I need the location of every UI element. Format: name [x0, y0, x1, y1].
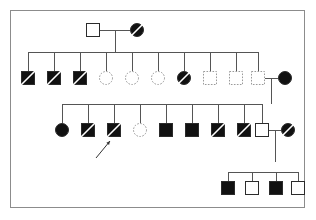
symbol-circle-II-6[interactable]	[152, 72, 165, 85]
individual-II-3-male-affected[interactable]	[72, 70, 88, 86]
individual-II-9-male-unaffected[interactable]	[230, 72, 243, 85]
individual-IV-1-male-affected[interactable]	[222, 182, 235, 195]
individual-IV-4-male-unaffected[interactable]	[292, 182, 305, 195]
individual-III-4-female-unaffected[interactable]	[134, 124, 147, 137]
annotations-layer	[96, 141, 110, 158]
individual-II-4-female-unaffected[interactable]	[100, 72, 113, 85]
chart-frame-rect	[11, 11, 305, 208]
individual-I-2-female-affected[interactable]	[129, 22, 145, 38]
individual-II-5-female-unaffected[interactable]	[126, 72, 139, 85]
symbol-square-IV-3[interactable]	[270, 182, 283, 195]
individual-IV-2-male-unaffected[interactable]	[246, 182, 259, 195]
individual-III-1-female-affected[interactable]	[56, 124, 69, 137]
individual-II-7-female-affected[interactable]	[176, 70, 192, 86]
proband-arrow	[96, 141, 110, 158]
individual-II-2-male-affected[interactable]	[46, 70, 62, 86]
symbol-square-IV-1[interactable]	[222, 182, 235, 195]
symbol-circle-II-4[interactable]	[100, 72, 113, 85]
individual-II-6-female-unaffected[interactable]	[152, 72, 165, 85]
symbol-square-II-10[interactable]	[252, 72, 265, 85]
connector-lines-layer	[11, 11, 305, 208]
individual-III-6-male-affected[interactable]	[186, 124, 199, 137]
symbol-circle-III-4[interactable]	[134, 124, 147, 137]
symbol-square-III-6[interactable]	[186, 124, 199, 137]
individual-II-1-male-affected[interactable]	[20, 70, 36, 86]
individual-III-9-male-unaffected[interactable]	[256, 124, 269, 137]
symbol-square-III-5[interactable]	[160, 124, 173, 137]
symbol-square-IV-4[interactable]	[292, 182, 305, 195]
individual-I-1-male-unaffected[interactable]	[87, 24, 100, 37]
individual-III-8-male-affected[interactable]	[236, 122, 252, 138]
individual-III-2-male-affected[interactable]	[80, 122, 96, 138]
symbol-circle-II-5[interactable]	[126, 72, 139, 85]
individual-III-5-male-affected[interactable]	[160, 124, 173, 137]
symbol-square-III-9[interactable]	[256, 124, 269, 137]
symbol-circle-III-1[interactable]	[56, 124, 69, 137]
symbol-square-IV-2[interactable]	[246, 182, 259, 195]
pedigree-diagram	[0, 0, 316, 220]
individual-II-8-male-unaffected[interactable]	[204, 72, 217, 85]
individual-III-3-male-affected[interactable]	[106, 122, 122, 138]
symbol-square-I-1[interactable]	[87, 24, 100, 37]
pedigree-chart	[0, 0, 316, 220]
symbol-circle-II-11[interactable]	[279, 72, 292, 85]
individual-IV-3-male-affected[interactable]	[270, 182, 283, 195]
symbol-square-II-9[interactable]	[230, 72, 243, 85]
individual-II-11-female-affected[interactable]	[279, 72, 292, 85]
symbol-square-II-8[interactable]	[204, 72, 217, 85]
individual-III-7-male-affected[interactable]	[210, 122, 226, 138]
individual-II-10-male-unaffected[interactable]	[252, 72, 265, 85]
individual-III-10-female-affected[interactable]	[280, 122, 296, 138]
